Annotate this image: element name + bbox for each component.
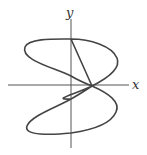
x-axis-label: x [132,77,140,92]
y-axis-label: y [65,5,74,20]
plot-canvas: x y [0,0,147,155]
parametric-curve-figure: x y [0,0,147,155]
